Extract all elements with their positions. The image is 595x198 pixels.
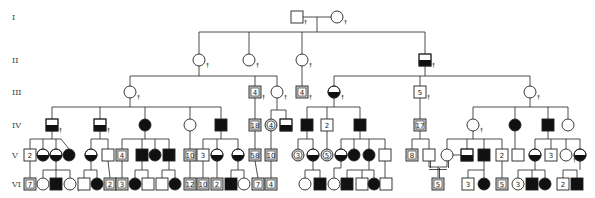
male-individual-VI3 [50,178,62,190]
female-individual-V21 [348,149,360,161]
male-individual-V23 [379,149,391,161]
male-square-icon [142,178,154,190]
male-individual-V27 [461,149,473,161]
female-circle-icon [467,119,479,131]
female-individual-V26 [441,149,453,161]
deceased-marker-icon: † [262,93,265,100]
female-circle-icon [348,149,360,161]
sibship-count: 18 [251,122,260,130]
female-individual-V2 [37,149,49,161]
female-circle-icon [539,178,551,190]
male-individual-III6: 5† [414,86,430,100]
carrier-half-fill [94,125,106,131]
pedigree-chart: IIIIIIIVVVI †††††††4††4††5††††184217†241… [0,0,595,198]
male-individual-V25 [423,149,435,161]
sibship-count: 2 [108,181,112,189]
sibship-count: 3 [466,181,470,189]
female-individual-IV3 [139,119,151,131]
male-individual-VI15: 2 [211,178,223,190]
female-individual-VI20 [299,178,311,190]
male-individual-V30 [512,149,524,161]
male-square-icon [215,119,227,131]
female-individual-VI29 [478,178,490,190]
male-square-icon [314,178,326,190]
sibship-count: 3 [120,181,124,189]
male-individual-V6 [102,149,114,161]
male-square-icon [354,119,366,131]
pedigree-line [108,161,110,178]
pedigree-svg: IIIIIIIVVVI †††††††4††4††5††††184217†241… [0,0,595,198]
carrier-half-fill [307,155,319,161]
female-circle-icon [124,86,136,98]
female-individual-III3: † [271,86,287,100]
female-individual-VI25 [368,178,380,190]
female-circle-icon [478,178,490,190]
generation-label: IV [12,121,21,130]
male-individual-VI13: 12 [184,178,196,190]
male-square-icon [423,149,435,161]
male-individual-VI21 [314,178,326,190]
female-individual-VI33 [539,178,551,190]
female-individual-V3 [50,149,62,161]
carrier-half-fill [328,92,340,98]
male-individual-VI5 [78,178,90,190]
male-square-icon [542,119,554,131]
male-square-icon [526,178,538,190]
female-individual-VI6 [91,178,103,190]
female-circle-icon [509,119,521,131]
male-square-icon [341,178,353,190]
female-individual-V9 [149,149,161,161]
female-circle-icon [331,11,343,23]
female-individual-IV16 [562,119,574,131]
female-individual-IV4 [184,119,196,131]
male-square-icon [156,178,168,190]
deceased-marker-icon: † [107,126,110,133]
female-circle-icon [139,119,151,131]
female-individual-V14 [232,149,244,161]
male-individual-IV11 [354,119,366,131]
sibship-count: 10 [267,152,276,160]
deceased-marker-icon: † [137,93,140,100]
female-individual-III1: † [124,86,140,100]
female-circle-icon [562,119,574,131]
female-individual-VI31: 3 [512,178,524,190]
female-individual-V33: † [560,149,576,163]
sibship-count: 10 [199,181,208,189]
male-individual-VI23 [341,178,353,190]
female-individual-II2: † [243,54,259,68]
deceased-marker-icon: † [309,93,312,100]
male-individual-VI28: 3 [462,178,474,190]
sibship-count: 5 [436,181,440,189]
generation-label: I [12,13,15,22]
female-individual-V4 [63,149,75,161]
female-circle-icon [64,178,76,190]
female-individual-VI22 [328,178,340,190]
male-individual-IV6: 18 [249,119,261,131]
male-individual-V15: 58 [249,149,261,161]
male-individual-VI11 [156,178,168,190]
male-individual-III4: 4† [296,86,312,100]
deceased-marker-icon: † [480,126,483,133]
female-circle-icon [184,119,196,131]
sibship-count: 5 [418,89,422,97]
female-circle-icon [328,178,340,190]
sibship-count: 3 [201,152,205,160]
male-individual-IV10: 2 [321,119,333,131]
male-square-icon [136,149,148,161]
female-circle-icon [129,178,141,190]
sibship-count: 10 [186,152,195,160]
female-individual-V13 [211,149,223,161]
male-individual-VI26 [380,178,392,190]
female-individual-V17: 3 [292,149,304,161]
male-individual-V10 [163,149,175,161]
male-individual-IV1: † [46,119,62,133]
female-circle-icon [91,178,103,190]
sibship-count: 7 [256,181,260,189]
deceased-marker-icon: † [432,61,435,68]
pedigree-line [255,161,258,178]
male-square-icon [356,178,368,190]
sibship-count: 4 [120,152,125,160]
sibship-count: 2 [561,181,565,189]
female-individual-V31 [529,149,541,161]
male-individual-VI1: 7 [24,178,36,190]
